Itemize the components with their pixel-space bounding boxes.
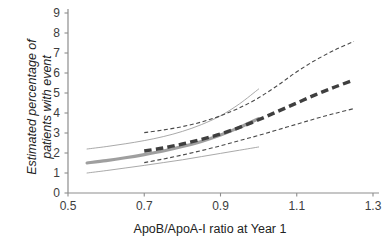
y-axis-title-line-2: patients with event [40,12,55,202]
x-axis-title: ApoB/ApoA-I ratio at Year 1 [90,222,330,236]
series-line [144,41,354,132]
axes-group [65,9,380,197]
x-axis-tick-label: 0.5 [51,200,85,212]
series-line [144,80,354,151]
x-axis-tick-label: 0.9 [204,200,238,212]
x-axis-tick-label: 1.3 [356,200,389,212]
y-axis-title-line-1: Estimated percentage of [25,12,40,202]
series-line [144,109,354,163]
series-group [87,41,354,173]
x-axis-tick-label: 0.7 [127,200,161,212]
x-axis-tick-label: 1.1 [280,200,314,212]
series-line [87,119,259,163]
chart-container: 0123456789 0.50.70.91.11.3 ApoB/ApoA-I r… [0,0,389,244]
y-axis-title: Estimated percentage of patients with ev… [25,12,55,202]
series-line [87,89,259,149]
